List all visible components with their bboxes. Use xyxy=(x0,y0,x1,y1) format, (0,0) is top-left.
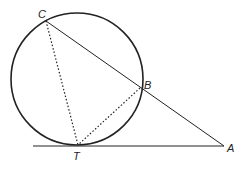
point-label-C: C xyxy=(38,8,46,20)
point-label-B: B xyxy=(144,79,151,91)
point-label-A: A xyxy=(226,142,234,154)
circle xyxy=(11,13,143,145)
secant-CA xyxy=(46,21,224,146)
geometry-diagram: C B T A xyxy=(0,0,241,169)
point-label-T: T xyxy=(73,150,81,162)
